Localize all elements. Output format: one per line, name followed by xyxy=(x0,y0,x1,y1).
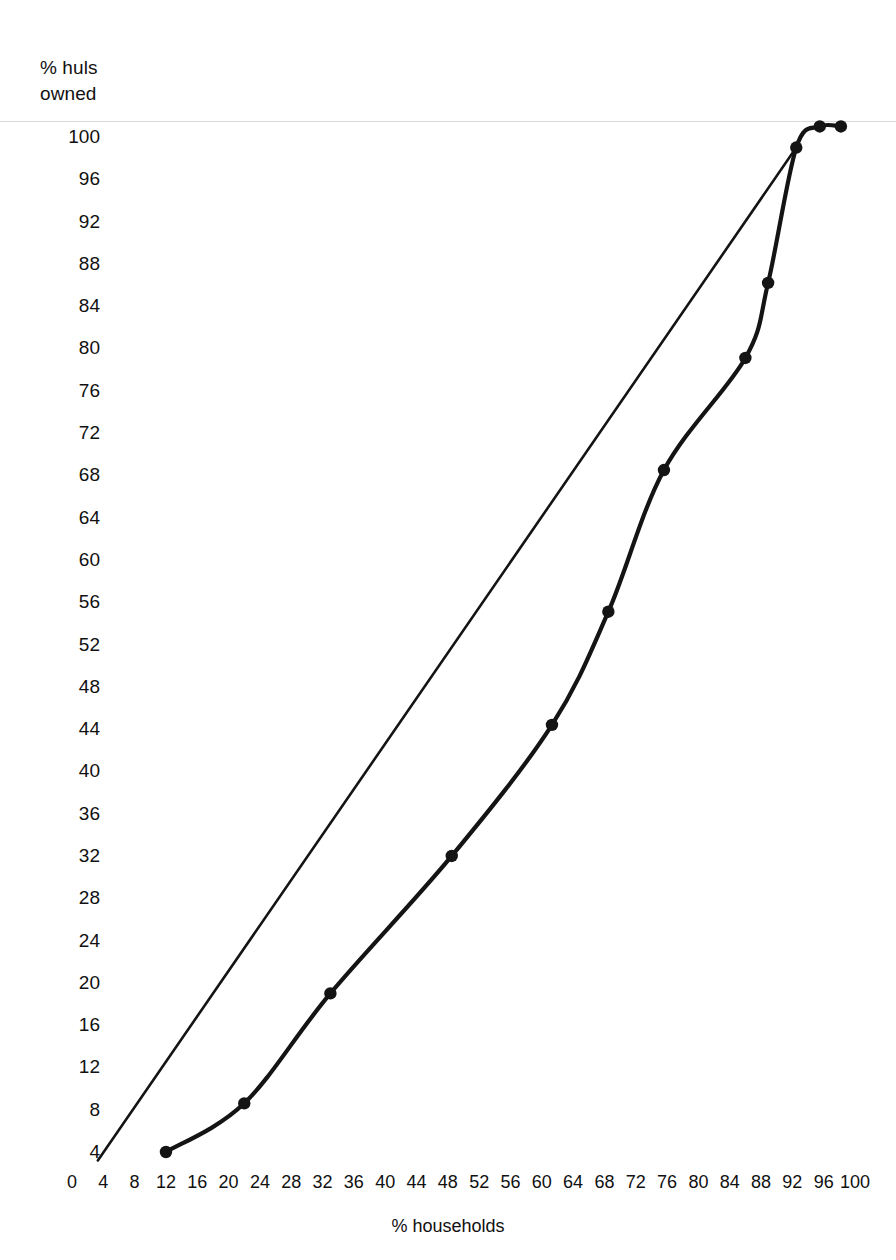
data-point-marker xyxy=(762,277,774,289)
plot-area xyxy=(0,0,896,1260)
data-point-marker xyxy=(814,120,826,132)
data-point-marker xyxy=(602,606,614,618)
data-point-marker xyxy=(324,987,336,999)
x-axis-title: % households xyxy=(0,1216,896,1237)
data-point-marker xyxy=(446,850,458,862)
data-point-marker xyxy=(739,352,751,364)
lorenz-curve-markers xyxy=(160,120,847,1158)
chart-figure: % huls owned 481216202428323640444852566… xyxy=(0,0,896,1260)
data-point-marker xyxy=(790,141,802,153)
data-point-marker xyxy=(238,1097,250,1109)
lorenz-curve-line xyxy=(166,125,841,1152)
data-point-marker xyxy=(658,464,670,476)
data-point-marker xyxy=(835,120,847,132)
data-point-marker xyxy=(546,719,558,731)
line-of-equality xyxy=(98,148,796,1161)
data-point-marker xyxy=(160,1146,172,1158)
